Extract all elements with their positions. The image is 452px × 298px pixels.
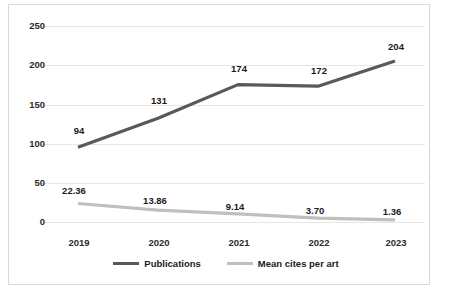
y-axis-tick-50: 50	[13, 178, 45, 188]
chart-legend: Publications Mean cites per art	[0, 258, 452, 269]
y-axis-tick-150: 150	[13, 100, 45, 110]
x-axis-tick-2023: 2023	[361, 237, 431, 248]
chart-frame: 250 200 150 100 50 0 2019 2020 2021 2022…	[8, 4, 430, 285]
data-label-publications-2022: 172	[289, 65, 349, 76]
data-label-meancites-2020: 13.86	[125, 195, 185, 206]
data-label-publications-2021: 174	[209, 63, 269, 74]
x-axis-tick-2022: 2022	[284, 237, 354, 248]
data-label-meancites-2021: 9.14	[205, 201, 265, 212]
data-label-publications-2023: 204	[366, 41, 426, 52]
data-label-publications-2020: 131	[129, 95, 189, 106]
gridline-0	[41, 222, 425, 223]
data-label-meancites-2019: 22.36	[44, 185, 104, 196]
y-axis-tick-100: 100	[13, 139, 45, 149]
legend-item-publications[interactable]: Publications	[113, 258, 200, 269]
gridline-100	[41, 144, 425, 145]
legend-swatch-publications	[113, 262, 139, 265]
y-axis-tick-250: 250	[13, 21, 45, 31]
x-axis-tick-2020: 2020	[124, 237, 194, 248]
x-axis-tick-2021: 2021	[204, 237, 274, 248]
y-axis-tick-200: 200	[13, 60, 45, 70]
gridline-50	[41, 183, 425, 184]
legend-item-mean-cites-per-art[interactable]: Mean cites per art	[227, 258, 339, 269]
y-axis-tick-0: 0	[13, 217, 45, 227]
data-label-publications-2019: 94	[49, 125, 109, 136]
legend-label-mean-cites-per-art: Mean cites per art	[258, 258, 339, 269]
x-axis-tick-2019: 2019	[44, 237, 114, 248]
gridline-250	[41, 26, 425, 27]
data-label-meancites-2022: 3.70	[285, 205, 345, 216]
legend-swatch-mean-cites-per-art	[227, 262, 253, 265]
data-label-meancites-2023: 1.36	[362, 206, 422, 217]
gridline-150	[41, 105, 425, 106]
legend-label-publications: Publications	[144, 258, 200, 269]
